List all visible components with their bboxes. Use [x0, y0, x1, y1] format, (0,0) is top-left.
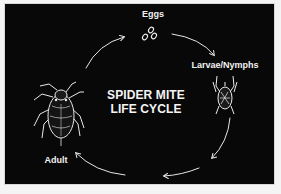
eggs-icon — [141, 26, 157, 40]
arrow-eggs-to-larvae — [172, 34, 214, 55]
diagram-title: SPIDER MITE LIFE CYCLE — [107, 88, 185, 116]
arrow-larvae-down — [212, 118, 230, 158]
stage-label-eggs: Eggs — [142, 10, 164, 19]
adult-mite-icon — [34, 82, 84, 146]
arrow-bottom-left — [164, 168, 199, 176]
larva-mite-icon — [213, 76, 237, 114]
title-line-2: LIFE CYCLE — [107, 102, 185, 116]
arrow-adult-to-eggs — [86, 37, 124, 68]
title-line-1: SPIDER MITE — [107, 88, 185, 102]
stage-label-adult: Adult — [45, 156, 68, 165]
stage-label-larvae-nymphs: Larvae/Nymphs — [191, 61, 258, 70]
arrow-to-adult — [76, 153, 125, 175]
